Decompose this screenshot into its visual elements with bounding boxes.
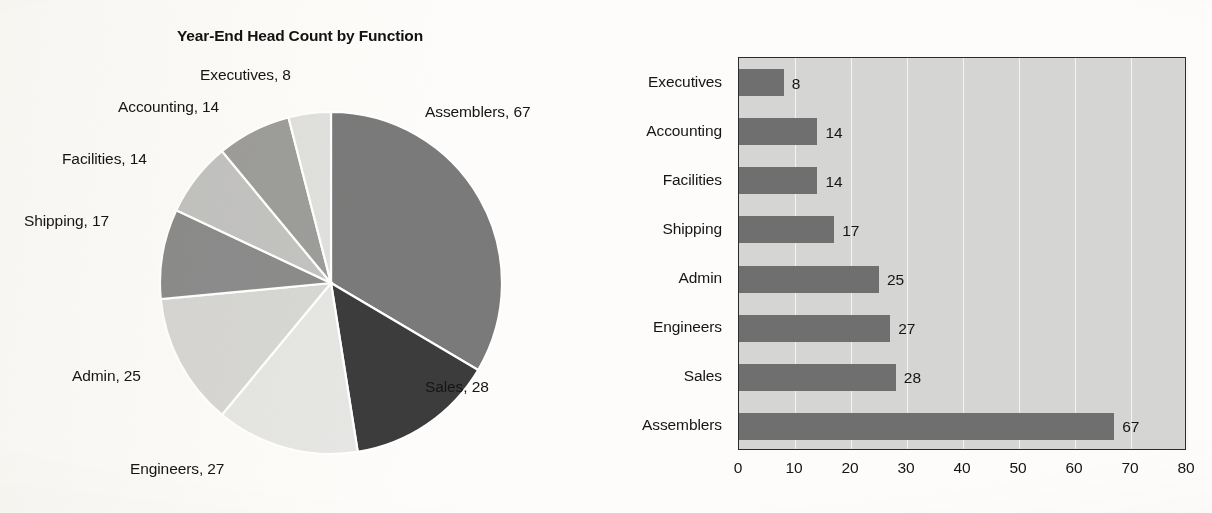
pie-label-facilities: Facilities, 14: [62, 150, 147, 168]
pie-label-sales: Sales, 28: [425, 378, 489, 396]
gridline-50: [1019, 58, 1020, 449]
pie-label-accounting: Accounting, 14: [118, 98, 219, 116]
figure-two-charts: Year-End Head Count by Function Executiv…: [0, 0, 1212, 513]
pie-label-executives: Executives, 8: [200, 66, 291, 84]
xtick-0: 0: [734, 459, 743, 477]
xtick-50: 50: [1009, 459, 1026, 477]
bar-category-label-assemblers: Assemblers: [642, 416, 722, 434]
bar-engineers: [739, 315, 890, 342]
bar-category-label-accounting: Accounting: [646, 122, 722, 140]
bar-value-accounting: 14: [825, 125, 842, 141]
bar-value-executives: 8: [792, 76, 801, 92]
bar-category-label-sales: Sales: [684, 367, 722, 385]
bar-category-label-facilities: Facilities: [663, 171, 722, 189]
xtick-10: 10: [785, 459, 802, 477]
xtick-30: 30: [897, 459, 914, 477]
pie-chart-graphic: [0, 0, 610, 513]
bar-chart-panel: Year-End Head Count by Function Executiv…: [620, 0, 1212, 513]
bar-category-label-shipping: Shipping: [662, 220, 722, 238]
bar-shipping: [739, 216, 834, 243]
bar-value-engineers: 27: [898, 321, 915, 337]
bar-value-facilities: 14: [825, 174, 842, 190]
xtick-60: 60: [1065, 459, 1082, 477]
bar-category-label-engineers: Engineers: [653, 318, 722, 336]
pie-chart-panel: Year-End Head Count by Function Executiv…: [0, 0, 610, 513]
xtick-70: 70: [1121, 459, 1138, 477]
gridline-60: [1075, 58, 1076, 449]
pie-label-engineers: Engineers, 27: [130, 460, 224, 478]
gridline-80: [1187, 58, 1188, 449]
bar-category-axis: ExecutivesAccountingFacilitiesShippingAd…: [620, 57, 732, 450]
bar-category-label-executives: Executives: [648, 73, 722, 91]
gridline-30: [907, 58, 908, 449]
bar-sales: [739, 364, 896, 391]
pie-label-assemblers: Assemblers, 67: [425, 103, 530, 121]
bar-value-sales: 28: [904, 370, 921, 386]
xtick-20: 20: [841, 459, 858, 477]
xtick-40: 40: [953, 459, 970, 477]
bar-value-admin: 25: [887, 272, 904, 288]
bar-value-shipping: 17: [842, 223, 859, 239]
bar-chart-plot-area: 814141725272867: [738, 57, 1186, 450]
gridline-40: [963, 58, 964, 449]
bar-facilities: [739, 167, 817, 194]
bar-executives: [739, 69, 784, 96]
gridline-70: [1131, 58, 1132, 449]
bar-admin: [739, 266, 879, 293]
bar-category-label-admin: Admin: [679, 269, 722, 287]
bar-value-assemblers: 67: [1122, 419, 1139, 435]
bar-assemblers: [739, 413, 1114, 440]
xtick-80: 80: [1177, 459, 1194, 477]
pie-label-shipping: Shipping, 17: [24, 212, 109, 230]
bar-accounting: [739, 118, 817, 145]
pie-label-admin: Admin, 25: [72, 367, 141, 385]
